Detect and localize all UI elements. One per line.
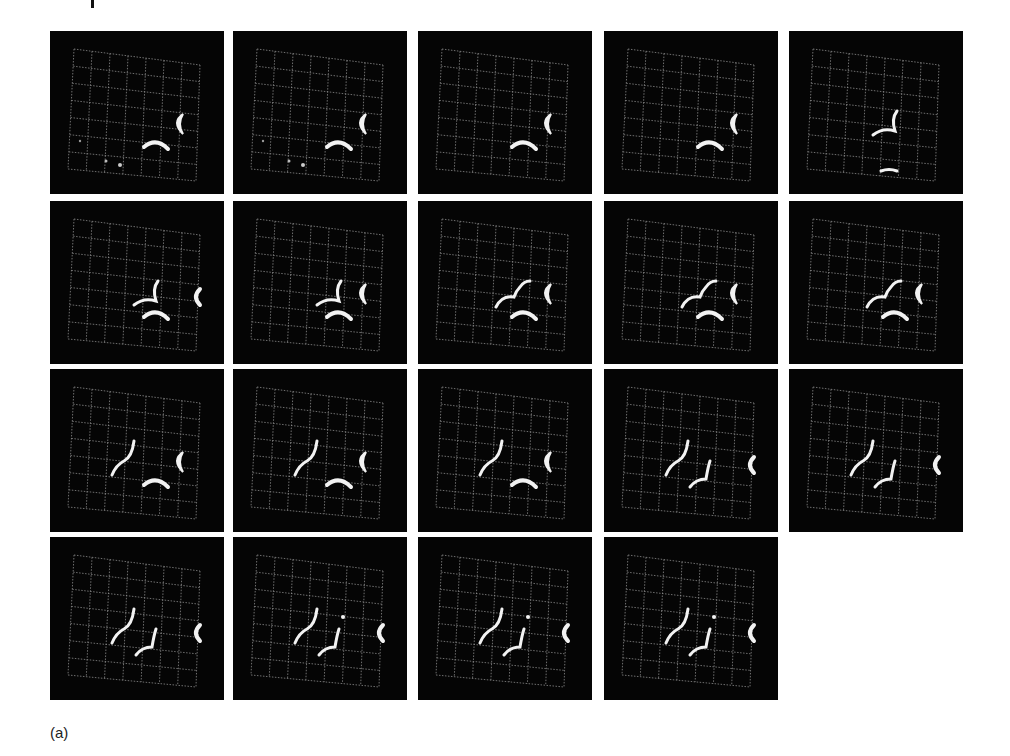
image-frame-3: [418, 31, 592, 194]
image-frame-19: [604, 537, 778, 700]
image-frame-7: [233, 201, 407, 364]
image-frame-11: [50, 369, 224, 532]
image-frame-9: [604, 201, 778, 364]
image-frame-15: [789, 369, 963, 532]
image-frame-8: [418, 201, 592, 364]
image-frame-6: [50, 201, 224, 364]
frame-graphic: [604, 201, 778, 364]
image-frame-5: [789, 31, 963, 194]
frame-graphic: [233, 369, 407, 532]
frame-graphic: [418, 201, 592, 364]
frame-graphic: [418, 369, 592, 532]
frame-graphic: [50, 537, 224, 700]
frame-graphic: [233, 201, 407, 364]
frame-graphic: [50, 201, 224, 364]
frame-graphic: [233, 31, 407, 194]
frame-graphic: [789, 201, 963, 364]
top-edge-mark: [91, 0, 94, 8]
image-frame-14: [604, 369, 778, 532]
image-frame-16: [50, 537, 224, 700]
image-frame-1: [50, 31, 224, 194]
image-frame-10: [789, 201, 963, 364]
frame-graphic: [604, 31, 778, 194]
frame-graphic: [50, 369, 224, 532]
frame-graphic: [418, 31, 592, 194]
frame-graphic: [50, 31, 224, 194]
frame-graphic: [604, 369, 778, 532]
image-frame-17: [233, 537, 407, 700]
figure-caption: (a): [50, 724, 68, 741]
image-frame-2: [233, 31, 407, 194]
frame-graphic: [233, 537, 407, 700]
image-frame-18: [418, 537, 592, 700]
frame-graphic: [789, 31, 963, 194]
image-frame-4: [604, 31, 778, 194]
image-frame-12: [233, 369, 407, 532]
frame-graphic: [789, 369, 963, 532]
frame-graphic: [418, 537, 592, 700]
frame-graphic: [604, 537, 778, 700]
image-frame-13: [418, 369, 592, 532]
